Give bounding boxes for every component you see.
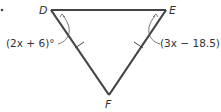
vertex-label-d: D [39, 4, 47, 17]
vertex-label-f: F [105, 98, 112, 111]
side-ef [109, 10, 166, 95]
side-df [51, 10, 109, 95]
angle-label-d: (2x + 6)° [6, 37, 55, 49]
triangle-diagram: D E F (2x + 6)° (3x − 18.5) [0, 0, 221, 112]
angle-label-e: (3x − 18.5) [160, 37, 220, 49]
arrowhead-icon [153, 14, 158, 17]
arrowhead-icon [60, 14, 65, 17]
tick-mark-df [75, 42, 84, 48]
bullet-dot [1, 9, 4, 12]
vertex-label-e: E [169, 4, 176, 17]
